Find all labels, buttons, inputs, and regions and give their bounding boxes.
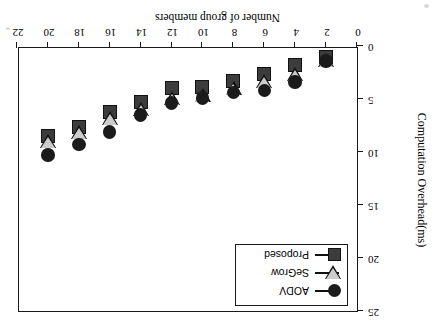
chart-figure: Computation Overhead(ms) Number of group… (0, 0, 435, 330)
x-tick-label: 20 (36, 27, 62, 38)
legend-label-aodv: AODV (279, 285, 309, 297)
legend-marker-triangle-icon (311, 265, 341, 281)
y-tick-label: 10 (368, 148, 394, 159)
x-tick (16, 42, 17, 48)
x-tick (171, 42, 172, 48)
data-point-aodv (227, 86, 241, 100)
x-tick-label: 2 (314, 27, 340, 38)
data-point-aodv (196, 91, 210, 105)
x-tick (263, 42, 264, 48)
y-tick-label: 20 (368, 254, 394, 265)
x-tick (356, 42, 357, 48)
legend: AODV SeGrow Proposed (235, 244, 348, 306)
data-point-aodv (41, 148, 55, 162)
x-tick-label: 8 (221, 27, 247, 38)
legend-item-aodv: AODV (240, 282, 341, 300)
legend-item-proposed: Proposed (240, 246, 341, 264)
legend-label-proposed: Proposed (264, 249, 309, 261)
x-tick-label: 14 (129, 27, 155, 38)
y-tick (357, 45, 363, 46)
data-point-aodv (72, 138, 86, 152)
data-point-aodv (258, 84, 272, 98)
data-point-aodv (103, 125, 117, 139)
y-tick-label: 25 (368, 307, 394, 318)
x-tick (232, 42, 233, 48)
x-axis-title: Number of group members (0, 12, 435, 24)
y-tick-label: 15 (368, 201, 394, 212)
x-tick (78, 42, 79, 48)
y-tick (357, 151, 363, 152)
data-point-aodv (319, 54, 333, 68)
x-tick (140, 42, 141, 48)
x-tick-label: 16 (98, 27, 124, 38)
legend-marker-circle-icon (311, 283, 341, 299)
x-tick (109, 42, 110, 48)
y-tick (357, 310, 363, 311)
y-tick (357, 98, 363, 99)
y-axis-title: Computation Overhead(ms) (414, 113, 429, 247)
data-point-aodv (288, 75, 302, 89)
y-tick-label: 5 (368, 95, 394, 106)
data-point-aodv (165, 97, 179, 111)
scan-artifact (424, 4, 429, 8)
x-tick (325, 42, 326, 48)
x-tick (294, 42, 295, 48)
data-point-aodv (134, 108, 148, 122)
x-tick (201, 42, 202, 48)
legend-item-segrow: SeGrow (240, 264, 341, 282)
x-tick-label: 6 (252, 27, 278, 38)
x-tick (47, 42, 48, 48)
legend-marker-square-icon (311, 247, 341, 263)
y-tick-label: 0 (368, 42, 394, 53)
legend-label-segrow: SeGrow (271, 267, 309, 279)
scan-artifact (6, 27, 10, 30)
x-tick-label: 18 (67, 27, 93, 38)
y-tick (357, 204, 363, 205)
x-tick-label: 10 (190, 27, 216, 38)
x-tick-label: 12 (160, 27, 186, 38)
y-tick (357, 257, 363, 258)
plot-area: AODV SeGrow Proposed (18, 47, 358, 312)
x-tick-label: 4 (283, 27, 309, 38)
x-tick-label: 0 (345, 27, 371, 38)
